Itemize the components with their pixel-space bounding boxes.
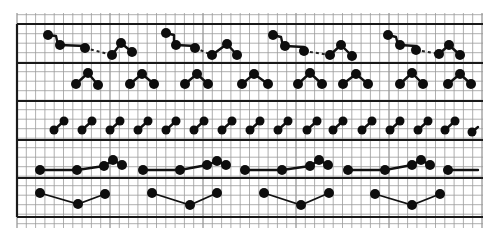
node-dot xyxy=(414,126,423,135)
node-dot xyxy=(137,69,147,79)
row-1-step-chain-with-dashed-link-and-peak xyxy=(43,28,465,61)
node-dot xyxy=(443,79,453,89)
node-dot xyxy=(73,199,83,209)
node-dot xyxy=(125,79,135,89)
node-dot xyxy=(268,30,278,40)
node-dot xyxy=(329,126,338,135)
node-dot xyxy=(455,69,465,79)
motif xyxy=(43,30,137,60)
node-dot xyxy=(277,165,287,175)
node-dot xyxy=(55,40,65,50)
motif xyxy=(161,28,242,60)
node-dot xyxy=(407,160,417,170)
node-dot xyxy=(363,79,373,89)
node-dot xyxy=(144,117,153,126)
node-dot xyxy=(117,160,127,170)
node-dot xyxy=(325,50,335,60)
node-dot xyxy=(106,126,115,135)
node-dot xyxy=(80,43,90,53)
node-dot xyxy=(240,165,250,175)
node-dot xyxy=(443,165,453,175)
node-dot xyxy=(386,126,395,135)
node-dot xyxy=(351,69,361,79)
node-dot xyxy=(147,188,157,198)
node-dot xyxy=(35,165,45,175)
node-dot xyxy=(222,39,232,49)
row-4-baseline-with-terminal-peak xyxy=(35,155,478,175)
node-dot xyxy=(313,117,322,126)
node-dot xyxy=(78,126,87,135)
node-dot xyxy=(256,117,265,126)
node-dot xyxy=(358,126,367,135)
node-dot xyxy=(466,79,476,89)
node-dot xyxy=(190,43,200,53)
node-dot xyxy=(324,188,334,198)
node-dot xyxy=(138,165,148,175)
motif xyxy=(395,68,428,89)
node-dot xyxy=(296,200,306,210)
node-dot xyxy=(50,126,59,135)
node-dot xyxy=(416,155,426,165)
node-dot xyxy=(185,200,195,210)
node-dot xyxy=(221,160,231,170)
node-dot xyxy=(88,117,97,126)
node-dot xyxy=(380,165,390,175)
node-dot xyxy=(162,126,171,135)
node-dot xyxy=(418,79,428,89)
node-dot xyxy=(263,79,273,89)
node-dot xyxy=(72,165,82,175)
node-dot xyxy=(246,126,255,135)
node-dot xyxy=(127,47,137,57)
node-dot xyxy=(172,117,181,126)
node-dot xyxy=(99,161,109,171)
node-dot xyxy=(71,79,81,89)
node-dot xyxy=(314,155,324,165)
node-dot xyxy=(317,79,327,89)
node-dot xyxy=(228,117,237,126)
node-dot xyxy=(35,188,45,198)
node-dot xyxy=(93,80,103,90)
node-dot xyxy=(212,156,222,166)
motif xyxy=(268,30,357,61)
node-dot xyxy=(411,45,421,55)
node-dot xyxy=(434,49,444,59)
step-link xyxy=(48,35,85,48)
node-dot xyxy=(338,79,348,89)
node-dot xyxy=(149,79,159,89)
node-dot xyxy=(305,68,315,78)
node-dot xyxy=(293,79,303,89)
node-dot xyxy=(100,189,110,199)
node-dot xyxy=(383,30,393,40)
node-dot xyxy=(274,126,283,135)
node-dot xyxy=(407,200,417,210)
node-dot xyxy=(347,51,357,61)
node-dot xyxy=(202,160,212,170)
motif xyxy=(35,155,127,175)
node-dot xyxy=(441,126,450,135)
node-dot xyxy=(395,40,405,50)
graph-paper-figure xyxy=(0,0,497,242)
node-dot xyxy=(43,30,53,40)
node-dot xyxy=(190,126,199,135)
node-dot xyxy=(249,69,259,79)
node-dot xyxy=(83,68,93,78)
node-dot xyxy=(305,161,315,171)
node-dot xyxy=(343,165,353,175)
node-dot xyxy=(444,40,454,50)
node-dot xyxy=(171,40,181,50)
node-dot xyxy=(280,41,290,51)
node-dot xyxy=(396,117,405,126)
node-dot xyxy=(200,117,209,126)
node-dot xyxy=(299,46,309,56)
node-dot xyxy=(455,50,465,60)
node-dot xyxy=(370,189,380,199)
node-dot xyxy=(161,28,171,38)
node-dot xyxy=(192,69,202,79)
node-dot xyxy=(108,155,118,165)
motif xyxy=(383,30,465,60)
node-dot xyxy=(424,117,433,126)
node-dot xyxy=(116,117,125,126)
node-dot xyxy=(395,79,405,89)
node-dot xyxy=(60,117,69,126)
node-dot xyxy=(237,79,247,89)
